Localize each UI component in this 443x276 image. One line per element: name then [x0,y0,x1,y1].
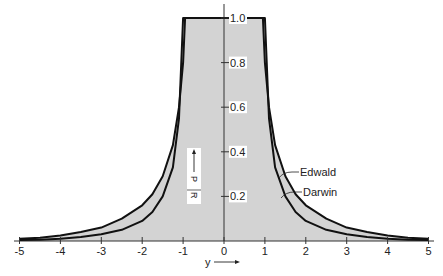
y-tick-label: 0.8 [230,57,245,69]
x-tick-label: 5 [425,245,431,257]
reflectivity-chart: -5-4-3-2-1012345 0.20.40.60.81.0 Edwald … [0,0,443,276]
x-tick-label: -5 [15,245,25,257]
darwin-label: Darwin [303,186,337,198]
y-tick-label: 0.6 [230,101,245,113]
x-tick-label: -1 [178,245,188,257]
x-label: y [205,256,211,268]
x-tick-label: -2 [137,245,147,257]
x-tick-label: -4 [56,245,66,257]
x-tick-label: 4 [385,245,391,257]
y-tick-label: 1.0 [230,12,245,24]
y-tick-label: 0.4 [230,146,245,158]
x-tick-label: 0 [221,245,227,257]
x-axis-label: y [205,256,240,268]
x-tick-label: -3 [96,245,106,257]
x-tick-label: 1 [262,245,268,257]
y-axis-label: P R [187,148,201,204]
axes [14,4,434,241]
x-tick-label: 3 [344,245,350,257]
edwald-label: Edwald [300,166,336,178]
y-tick-label: 0.2 [230,190,245,202]
edwald-annotation: Edwald [279,166,336,178]
y-label-denominator: R [189,192,199,199]
y-label-numerator: P [189,176,199,182]
x-tick-label: 2 [303,245,309,257]
